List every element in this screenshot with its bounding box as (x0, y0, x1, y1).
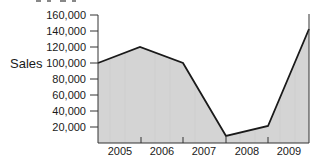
xcat-label-2008: 2008 (235, 145, 259, 157)
ytick-label-100000: 100,000 (46, 57, 86, 69)
ytick-label-40000: 40,000 (52, 105, 86, 117)
sales-area-chart: 160,000 140,000 120,000 100,000 80,000 6… (0, 0, 313, 158)
xcat-label-2007: 2007 (192, 145, 216, 157)
ytick-label-60000: 60,000 (52, 89, 86, 101)
ytick-label-140000: 140,000 (46, 25, 86, 37)
ytick-label-80000: 80,000 (52, 73, 86, 85)
sales-area-fill (98, 29, 309, 143)
ytick-label-20000: 20,000 (52, 121, 86, 133)
ytick-label-160000: 160,000 (46, 9, 86, 21)
xcat-label-2009: 2009 (277, 145, 301, 157)
xcat-label-2006: 2006 (150, 145, 174, 157)
cropped-header-fragment (36, 0, 76, 2)
y-tick-labels: 160,000 140,000 120,000 100,000 80,000 6… (46, 9, 86, 133)
ytick-label-120000: 120,000 (46, 41, 86, 53)
xcat-label-2005: 2005 (108, 145, 132, 157)
y-axis-title: Sales (10, 56, 43, 71)
x-category-labels: 2005 2006 2007 2008 2009 (108, 145, 301, 157)
y-ticks (90, 15, 98, 127)
